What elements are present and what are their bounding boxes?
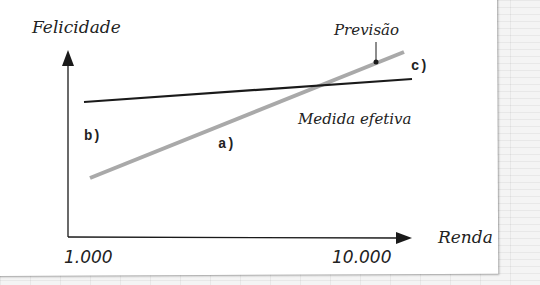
x-axis-arrow-icon [396, 232, 412, 244]
actual-label: Medida efetiva [297, 110, 412, 128]
x-axis-label: Renda [437, 227, 493, 247]
y-axis-label: Felicidade [31, 17, 121, 37]
x-axis [68, 237, 398, 238]
chart: Felicidade Renda 1.000 10.000 Previsão M… [0, 0, 540, 285]
prevision-marker-icon [374, 60, 379, 65]
annotation-c: c) [411, 58, 428, 74]
y-axis-arrow-icon [62, 50, 74, 66]
series-medida-efetiva-line [84, 79, 412, 102]
annotation-a: a) [218, 136, 235, 152]
prevision-label: Previsão [333, 21, 399, 39]
x-tick-high: 10.000 [332, 247, 391, 267]
annotation-b: b) [84, 128, 101, 144]
x-tick-low: 1.000 [64, 247, 113, 267]
